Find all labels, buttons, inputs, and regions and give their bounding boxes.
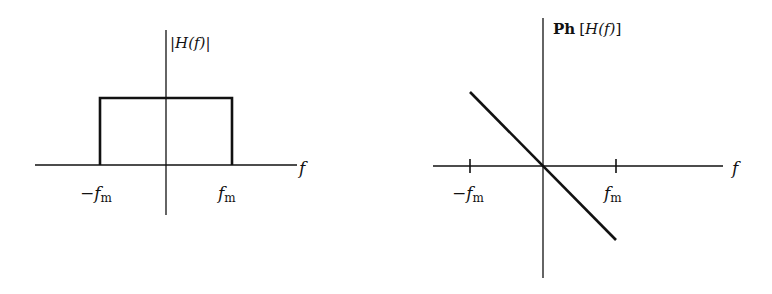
right-xlabel: f (730, 158, 741, 178)
figure: |H(f)| −fm fm f Ph[H(f)] −fm fm f (0, 0, 772, 294)
left-neg-fm-label: −fm (80, 183, 113, 205)
right-ylabel: Ph[H(f)] (553, 20, 621, 38)
right-neg-fm-label: −fm (452, 183, 485, 205)
left-xlabel: f (297, 158, 308, 178)
phase-plot: Ph[H(f)] −fm fm f (433, 18, 741, 278)
right-pos-fm-label: fm (602, 183, 622, 205)
left-ylabel: |H(f)| (170, 34, 210, 52)
magnitude-plot: |H(f)| −fm fm f (35, 30, 308, 215)
left-pos-fm-label: fm (216, 183, 236, 205)
